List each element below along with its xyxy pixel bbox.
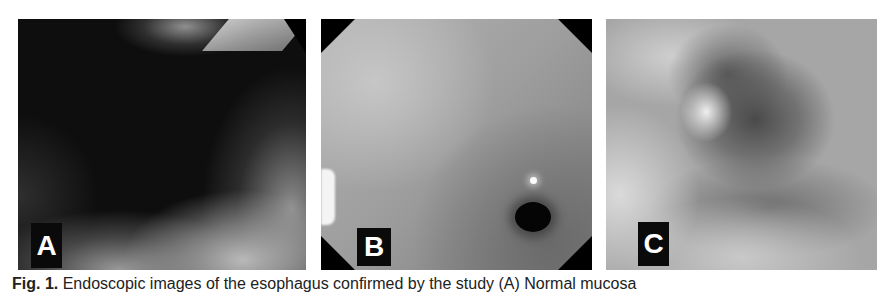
caption-fig-label: Fig. 1. <box>12 275 58 292</box>
figure-caption: Fig. 1. Endoscopic images of the esophag… <box>12 274 890 294</box>
light-spot <box>530 177 537 184</box>
image-corner-mask <box>321 236 355 270</box>
panel-label-b: B <box>357 228 391 266</box>
dark-orifice <box>515 202 551 232</box>
figure-panel-c: C <box>606 19 877 270</box>
image-corner-mask <box>284 19 306 53</box>
image-corner-mask <box>558 19 592 53</box>
image-corner-mask <box>321 19 355 53</box>
caption-text: Endoscopic images of the esophagus confi… <box>63 275 637 292</box>
figure-panel-b: B <box>321 19 592 270</box>
panel-label-c: C <box>638 222 669 266</box>
image-corner-mask <box>558 236 592 270</box>
light-reflection <box>321 169 335 225</box>
panel-label-a: A <box>31 223 62 268</box>
figure-panel-a: A <box>18 19 306 270</box>
